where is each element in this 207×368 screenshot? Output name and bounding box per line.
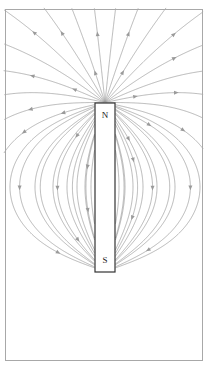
field-line	[44, 8, 104, 101]
field-line	[5, 93, 104, 103]
field-direction-arrow	[131, 215, 135, 220]
field-direction-arrow	[146, 122, 151, 126]
field-line	[85, 134, 94, 239]
field-direction-arrow	[61, 31, 65, 36]
north-pole-label: N	[102, 110, 109, 120]
field-direction-arrow	[146, 247, 151, 251]
field-line	[91, 151, 94, 224]
field-direction-arrow	[22, 129, 27, 133]
field-direction-arrow	[151, 186, 155, 191]
field-line	[106, 93, 203, 103]
field-line	[116, 113, 157, 260]
field-direction-arrow	[55, 186, 59, 191]
field-direction-arrow	[96, 32, 100, 37]
field-direction-arrow	[180, 127, 185, 131]
field-direction-arrow	[188, 186, 192, 191]
field-line	[86, 136, 95, 238]
field-line	[115, 136, 124, 238]
field-line	[116, 151, 119, 224]
bar-magnet-body	[95, 103, 115, 272]
field-line	[116, 134, 125, 239]
field-direction-arrow	[30, 74, 35, 78]
field-direction-arrow	[120, 70, 124, 75]
field-direction-arrow	[18, 186, 22, 191]
field-direction-arrow	[126, 31, 130, 36]
magnetic-field-diagram: N S	[0, 0, 207, 368]
field-line	[105, 8, 165, 101]
field-line	[53, 113, 94, 260]
field-direction-arrow	[75, 133, 79, 138]
field-direction-arrow	[72, 88, 77, 92]
field-line	[4, 105, 94, 153]
field-diagram-canvas: N S	[0, 0, 207, 368]
field-direction-arrow	[131, 157, 135, 162]
south-pole-label: S	[102, 255, 107, 265]
field-direction-arrow	[94, 71, 98, 76]
field-direction-arrow	[61, 110, 66, 114]
field-line	[67, 118, 95, 256]
field-direction-arrow	[174, 91, 179, 95]
field-direction-arrow	[133, 95, 138, 99]
field-line	[5, 103, 105, 120]
